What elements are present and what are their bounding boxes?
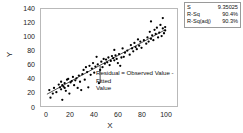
statistic-label: R-Sq: [187, 11, 200, 18]
regression-statistics-box: S9.35025R-Sq90.4%R-Sq(adj)90.3%: [184, 2, 241, 28]
x-tick-label: 20: [60, 111, 80, 118]
x-tick-label: 80: [132, 111, 152, 118]
statistic-label: R-Sq(adj): [187, 18, 211, 25]
statistic-value: 90.4%: [222, 11, 238, 18]
statistic-row: R-Sq90.4%: [187, 11, 238, 18]
x-tick-label: 40: [84, 111, 104, 118]
residual-annotation-line1: Residual = Observed Value - Fitted: [96, 69, 173, 84]
regression-scatter-chart: 020406080100120140 020406080100 Y X Resi…: [0, 0, 243, 133]
statistic-value: 90.3%: [222, 18, 238, 25]
residual-annotation: Residual = Observed Value - Fitted Value: [96, 69, 188, 92]
x-tick-label: 100: [156, 111, 176, 118]
statistic-row: S9.35025: [187, 4, 238, 11]
x-tick-label: 60: [108, 111, 128, 118]
y-axis-title: Y: [5, 45, 14, 65]
statistic-row: R-Sq(adj)90.3%: [187, 18, 238, 25]
statistic-value: 9.35025: [218, 4, 238, 11]
x-tick-label: 0: [36, 111, 56, 118]
residual-annotation-line2: Value: [96, 84, 111, 91]
statistic-label: S: [187, 4, 191, 11]
x-axis-title: X: [100, 121, 120, 130]
